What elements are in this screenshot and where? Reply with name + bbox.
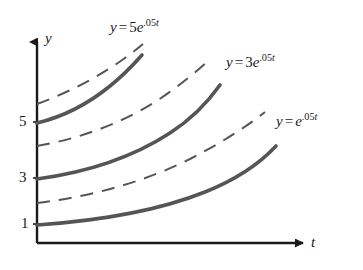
curve-label-1e-exponent-number: .05 [302, 111, 315, 122]
curve-5e [37, 55, 142, 123]
curve-1e [37, 146, 276, 225]
y-tick-label-1: 1 [21, 215, 29, 232]
curve-label-1e-exponent-var: t [315, 111, 318, 122]
y-tick-label-3: 3 [19, 169, 27, 186]
curve-label-5e-exponent-var: t [156, 17, 159, 28]
curve-label-1e-exponent: .05t [302, 111, 318, 122]
curve-label-5e-exponent-number: .05 [143, 17, 156, 28]
curve-3e [37, 85, 220, 179]
y-tick-label-5: 5 [19, 113, 27, 130]
dashed-curve-lower [37, 112, 265, 203]
curve-label-3e: y=3e.05t [226, 54, 275, 71]
curve-label-1e: y=e.05t [276, 113, 317, 130]
plot-canvas [0, 0, 363, 270]
curve-label-1e-var: y [276, 113, 283, 129]
curve-label-1e-equals: = [283, 113, 295, 129]
curve-label-5e: y=5e.05t [110, 19, 159, 36]
curve-label-5e-var: y [110, 19, 117, 35]
curve-label-1e-base: e [295, 113, 302, 129]
y-axis-label: y [45, 30, 52, 47]
curve-label-3e-var: y [226, 54, 233, 70]
exponential-growth-figure: y t 5 3 1 y=5e.05t y=3e.05t y=e.05t [0, 0, 363, 270]
curve-label-3e-exponent: .05t [259, 52, 275, 63]
t-axis-label: t [311, 234, 315, 251]
curve-label-5e-equals: = [117, 19, 129, 35]
curve-label-3e-coefficient: 3 [245, 54, 253, 70]
curve-label-5e-coefficient: 5 [129, 19, 137, 35]
curve-label-3e-exponent-var: t [272, 52, 275, 63]
curve-label-3e-exponent-number: .05 [259, 52, 272, 63]
dashed-curve-upper [37, 44, 143, 104]
curve-label-5e-exponent: .05t [143, 17, 159, 28]
curve-label-3e-equals: = [233, 54, 245, 70]
